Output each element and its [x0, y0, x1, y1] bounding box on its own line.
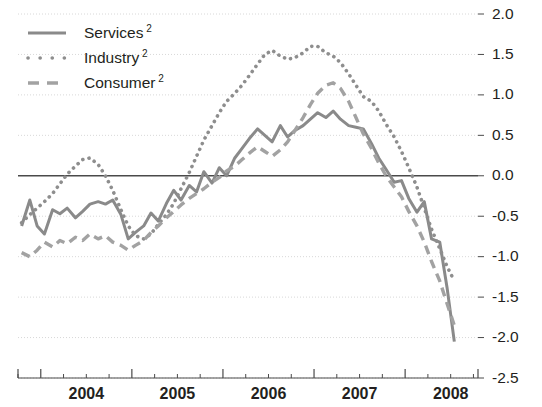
chart-legend: Services 2Industry 2Consumer 2 [28, 23, 164, 91]
y-tick-label: -2.0 [492, 328, 519, 345]
y-axis-labels: 2.01.51.00.50.0-0.5-1.0-1.5-2.0-2.5 [478, 5, 519, 386]
y-tick-label: 1.5 [492, 45, 514, 62]
legend-label-industry: Industry 2 [84, 48, 148, 66]
x-tick-label: 2008 [433, 385, 469, 402]
y-tick-label: 1.0 [492, 85, 514, 102]
y-tick-label: -0.5 [492, 207, 519, 224]
x-tick-label: 2004 [69, 385, 105, 402]
x-tick-label: 2006 [251, 385, 287, 402]
chart-container: 2.01.51.00.50.0-0.5-1.0-1.5-2.0-2.5 2004… [0, 0, 542, 407]
series-line-consumer [22, 83, 455, 326]
y-tick-label: 0.5 [492, 126, 514, 143]
line-chart: 2.01.51.00.50.0-0.5-1.0-1.5-2.0-2.5 2004… [0, 0, 542, 407]
y-tick-label: 2.0 [492, 5, 514, 22]
x-axis [18, 369, 478, 378]
legend-label-consumer: Consumer 2 [84, 73, 164, 91]
y-tick-label: -2.5 [492, 369, 519, 386]
x-axis-labels: 20042005200620072008 [69, 385, 469, 402]
y-tick-label: -1.5 [492, 288, 519, 305]
x-tick-label: 2005 [160, 385, 196, 402]
series-line-services [22, 111, 455, 342]
legend-label-services: Services 2 [84, 23, 152, 41]
y-tick-label: -1.0 [492, 247, 519, 264]
y-tick-label: 0.0 [492, 166, 514, 183]
x-tick-label: 2007 [342, 385, 378, 402]
